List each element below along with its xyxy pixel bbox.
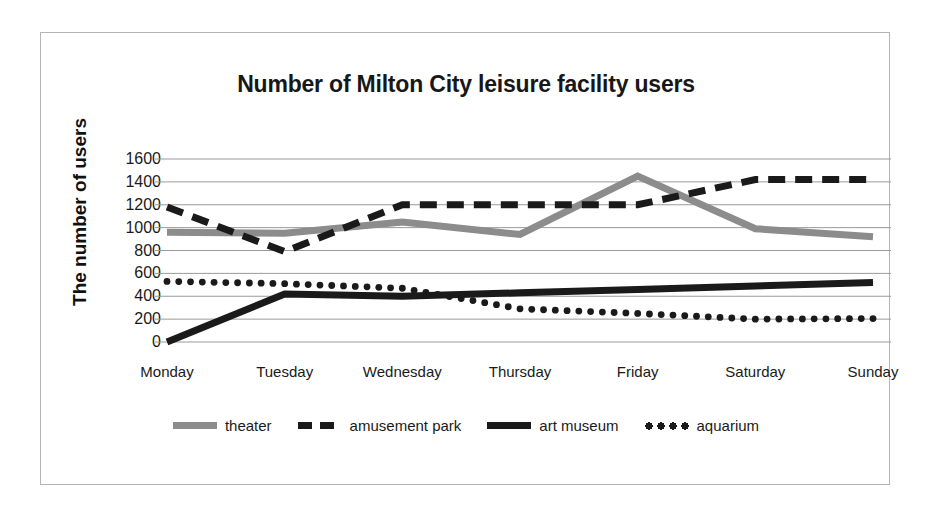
series-amusement-park [167, 180, 873, 252]
legend-label: aquarium [697, 417, 760, 434]
legend-swatch-amusement-park-icon [298, 422, 342, 429]
x-axis-tick-label: Monday [140, 363, 193, 380]
x-axis-tick-label: Friday [617, 363, 659, 380]
x-axis-tick-label: Tuesday [256, 363, 313, 380]
legend-item-theater[interactable]: theater [173, 417, 272, 434]
chart-legend: theateramusement parkart museumaquarium [41, 417, 891, 434]
x-axis-tick-label: Wednesday [363, 363, 442, 380]
legend-swatch-aquarium-icon [645, 422, 689, 430]
legend-item-aquarium[interactable]: aquarium [645, 417, 760, 434]
legend-item-amusement-park[interactable]: amusement park [298, 417, 462, 434]
chart-frame: Number of Milton City leisure facility u… [40, 32, 890, 485]
legend-label: art museum [539, 417, 618, 434]
legend-swatch-theater-icon [173, 422, 217, 429]
legend-item-art-museum[interactable]: art museum [487, 417, 618, 434]
x-axis-tick-label: Sunday [848, 363, 899, 380]
legend-label: theater [225, 417, 272, 434]
series-art-museum [167, 283, 873, 342]
x-axis-tick-label: Thursday [489, 363, 552, 380]
legend-label: amusement park [350, 417, 462, 434]
screenshot-root: Number of Milton City leisure facility u… [0, 0, 940, 513]
x-axis-tick-label: Saturday [725, 363, 785, 380]
legend-swatch-art-museum-icon [487, 422, 531, 429]
x-axis-tick-labels: MondayTuesdayWednesdayThursdayFridaySatu… [41, 363, 891, 393]
